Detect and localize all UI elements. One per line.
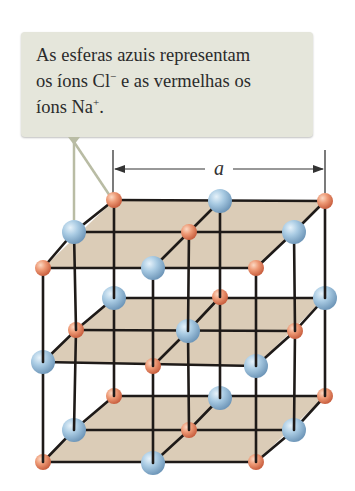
sodium-ion-sphere <box>106 192 122 208</box>
chloride-ion-sphere <box>141 256 165 280</box>
lattice-layer-bottom <box>35 386 333 475</box>
sodium-ion-sphere <box>317 193 333 209</box>
chloride-ion-sphere <box>62 220 86 244</box>
sodium-ion-sphere <box>248 260 264 276</box>
lattice-constant-dimension: a <box>113 150 325 193</box>
chloride-ion-sphere <box>282 220 306 244</box>
chloride-ion-sphere <box>208 189 232 213</box>
sodium-ion-sphere <box>181 224 197 240</box>
nacl-lattice-diagram: a <box>0 0 355 491</box>
sodium-ion-sphere <box>35 260 51 276</box>
lattice <box>31 189 337 475</box>
dimension-label-a: a <box>214 157 224 179</box>
